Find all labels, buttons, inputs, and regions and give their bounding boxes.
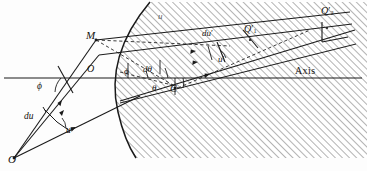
label-image-point-Q1: Q′1 (244, 24, 257, 34)
label-angle-phi-center: ϕ (124, 67, 129, 76)
label-image-angle-u-prime: u′ (218, 55, 224, 64)
label-object-point-O: O (8, 154, 16, 165)
label-q2-subscript: 2 (330, 9, 333, 16)
label-du-prime-text: du (202, 28, 211, 38)
label-image-angle-du-prime: du′ (202, 29, 213, 38)
label-vertex-point-O: O (87, 64, 94, 74)
label-du-prime-mark: ′ (211, 28, 213, 38)
label-angle-phi-left: ϕ (37, 82, 42, 92)
label-object-angle-u: u (66, 126, 71, 136)
label-u-prime-mark: ′ (223, 54, 225, 64)
label-object-angle-du: du (24, 112, 34, 122)
label-q1-subscript: 1 (253, 27, 256, 34)
label-axis: Axis (295, 66, 316, 76)
label-angle-dtheta: dθ (143, 65, 152, 74)
incident-ray-to-M (14, 40, 96, 158)
label-angle-theta: θ (152, 84, 156, 93)
incident-ray-paraxial (14, 96, 140, 158)
optics-ray-diagram-figure: O M O C Q′1 Q′2 Axis ϕ ϕ dθ θ du u du′ u… (0, 0, 367, 171)
diagram-canvas (0, 0, 367, 171)
label-medium-index-u: u (158, 12, 163, 21)
label-image-point-Q2: Q′2 (321, 6, 334, 16)
label-center-point-C: C (170, 84, 177, 94)
angle-phi-left-arc (55, 66, 73, 93)
label-marginal-point-M: M (86, 30, 95, 41)
